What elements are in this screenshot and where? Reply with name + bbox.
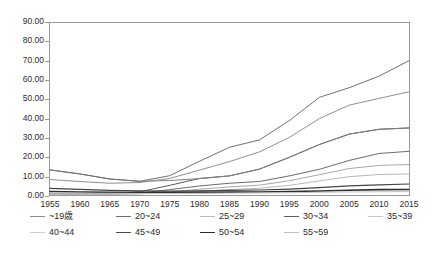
- series-line: [50, 92, 409, 183]
- x-tick-label: 2005: [340, 199, 359, 209]
- x-tick-label: 2010: [370, 199, 389, 209]
- legend-color-swatch: [200, 216, 215, 217]
- y-tick-label: 30.00: [0, 133, 44, 142]
- legend-item[interactable]: 35~39: [368, 211, 412, 222]
- legend-color-swatch: [284, 216, 299, 217]
- legend-item[interactable]: ~19歳: [30, 211, 73, 222]
- legend-label: 55~59: [303, 227, 328, 238]
- y-tick-label: 90.00: [0, 17, 44, 26]
- y-tick-label: 40.00: [0, 114, 44, 123]
- series-line: [50, 61, 409, 182]
- legend-row: ~19歳20~2425~2930~3435~39: [30, 210, 410, 222]
- legend-label: 25~29: [219, 211, 244, 222]
- legend-color-swatch: [30, 232, 45, 233]
- x-tick-label: 1990: [250, 199, 269, 209]
- x-tick-label: 1955: [41, 199, 60, 209]
- y-tick-label: 60.00: [0, 75, 44, 84]
- x-tick-label: 1980: [190, 199, 209, 209]
- legend-color-swatch: [200, 232, 215, 233]
- legend-item[interactable]: 50~54: [200, 227, 244, 238]
- y-tick-mark: [45, 196, 49, 197]
- series-line: [50, 128, 409, 194]
- y-tick-label: 20.00: [0, 152, 44, 161]
- y-tick-label: 50.00: [0, 94, 44, 103]
- y-tick-label: 10.00: [0, 172, 44, 181]
- legend-color-swatch: [116, 216, 131, 217]
- series-line: [50, 128, 409, 181]
- legend-label: 40~44: [49, 227, 74, 238]
- x-tick-label: 1965: [100, 199, 119, 209]
- series-line: [50, 151, 409, 194]
- x-tick-label: 1995: [280, 199, 299, 209]
- legend-color-swatch: [368, 216, 383, 217]
- line-chart: 0.0010.0020.0030.0040.0050.0060.0070.008…: [0, 0, 432, 253]
- x-tick-label: 1985: [220, 199, 239, 209]
- x-tick-label: 1975: [160, 199, 179, 209]
- legend-label: 45~49: [135, 227, 160, 238]
- legend-item[interactable]: 30~34: [284, 211, 328, 222]
- legend-item[interactable]: 25~29: [200, 211, 244, 222]
- legend-label: 30~34: [303, 211, 328, 222]
- x-tick-label: 2000: [310, 199, 329, 209]
- x-tick-label: 1960: [70, 199, 89, 209]
- legend-label: 20~24: [135, 211, 160, 222]
- legend-item[interactable]: 40~44: [30, 227, 74, 238]
- legend-color-swatch: [116, 232, 131, 233]
- plot-lines: [49, 22, 410, 196]
- legend-item[interactable]: 45~49: [116, 227, 160, 238]
- legend-item[interactable]: 55~59: [284, 227, 328, 238]
- legend-label: 50~54: [219, 227, 244, 238]
- y-tick-label: 70.00: [0, 56, 44, 65]
- legend-label: ~19歳: [49, 211, 73, 222]
- legend-color-swatch: [284, 232, 299, 233]
- y-tick-label: 80.00: [0, 36, 44, 45]
- legend-row: 40~4445~4950~5455~59: [30, 226, 410, 238]
- legend-color-swatch: [30, 216, 45, 217]
- chart-legend: ~19歳20~2425~2930~3435~3940~4445~4950~545…: [30, 210, 410, 244]
- legend-item[interactable]: 20~24: [116, 211, 160, 222]
- x-tick-label: 1970: [130, 199, 149, 209]
- x-tick-label: 2015: [400, 199, 419, 209]
- legend-label: 35~39: [387, 211, 412, 222]
